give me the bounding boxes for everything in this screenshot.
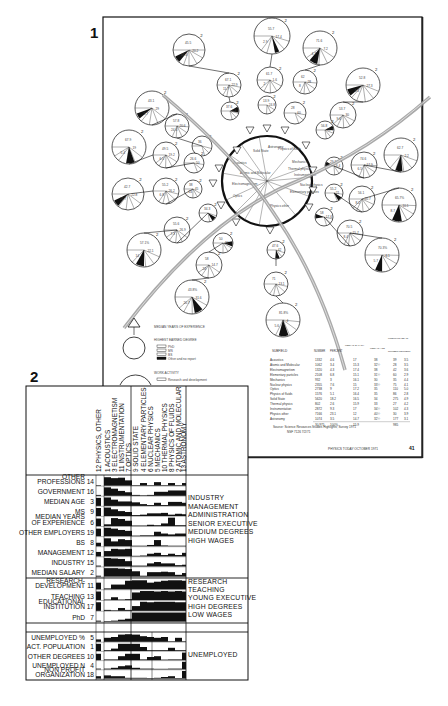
matrix-cell <box>147 657 154 660</box>
svg-text:Electromagnetism: Electromagnetism <box>270 368 295 372</box>
svg-text:3.5: 3.5 <box>330 417 335 421</box>
pie-value: 28 <box>307 80 311 84</box>
pie-value: 70.5 <box>346 225 352 229</box>
matrix-cell <box>104 508 111 516</box>
pie-chart: 42.722.825.72 <box>112 177 144 210</box>
matrix-cell <box>175 555 182 556</box>
matrix-cell <box>111 649 118 651</box>
svg-text:Optics: Optics <box>270 387 279 391</box>
svg-text:17: 17 <box>353 358 357 362</box>
matrix-cell <box>182 613 186 622</box>
table-total: 985 <box>393 423 398 427</box>
svg-text:4.9: 4.9 <box>404 397 409 401</box>
pie-value: 81.8% <box>279 311 288 315</box>
pie-chart: 67.9195.42 <box>112 129 146 164</box>
matrix-cell <box>111 610 118 611</box>
matrix-cell <box>168 572 175 576</box>
matrix-cell <box>154 492 161 496</box>
matrix-cell <box>132 526 140 527</box>
sector-label: Solid State <box>253 149 269 153</box>
svg-text:NUMBER PERCENT: NUMBER PERCENT <box>388 350 411 353</box>
matrix-cell <box>125 665 132 669</box>
matrix-cell <box>175 575 182 577</box>
matrix-cell <box>161 505 168 506</box>
pie-value: 2.2 <box>404 154 409 158</box>
svg-text:9.3: 9.3 <box>330 407 335 411</box>
matrix-cell <box>118 478 125 486</box>
matrix-group-label: TEACHING <box>188 586 225 593</box>
matrix-cell <box>168 515 175 516</box>
svg-text:7166: 7166 <box>315 412 322 416</box>
matrix-cell <box>175 514 182 516</box>
matrix-cell <box>168 676 175 678</box>
matrix-cell <box>118 600 125 601</box>
svg-text:1576: 1576 <box>315 392 322 396</box>
matrix-cell <box>147 583 154 590</box>
matrix-cell <box>132 556 140 557</box>
matrix-cell <box>104 650 111 651</box>
matrix-cell <box>161 613 168 622</box>
matrix-row-number: 16 <box>87 488 95 495</box>
matrix-cell <box>182 653 186 661</box>
pie-value: 13.1 <box>278 282 284 286</box>
matrix-cell <box>111 529 118 537</box>
matrix-cell <box>132 654 140 660</box>
matrix-group-label: HIGH DEGREES <box>188 603 243 610</box>
matrix-cell <box>111 549 118 557</box>
matrix-cell <box>154 602 161 611</box>
matrix-column-header: 11 INSTRUMENTATION <box>118 403 125 472</box>
matrix-cell <box>147 669 154 670</box>
matrix-cell <box>154 562 161 566</box>
svg-text:86: 86 <box>393 392 397 396</box>
matrix-cell <box>104 558 111 566</box>
pie-chart: 57.1%22.1142 <box>127 232 161 267</box>
matrix-cell <box>125 512 132 516</box>
matrix-cell <box>147 545 154 546</box>
svg-text:3.5: 3.5 <box>404 358 409 362</box>
matrix-cell <box>96 508 101 516</box>
pie-chart: 81.8%45.62 <box>266 302 300 337</box>
pie-value: 58 <box>205 257 209 261</box>
pie-chart: 71.67.24.72 <box>303 30 337 65</box>
matrix-cell <box>140 591 147 600</box>
svg-text:14.7: 14.7 <box>353 417 359 421</box>
matrix-cell <box>132 536 140 537</box>
matrix-row-label: GOVERNMENT <box>38 488 85 495</box>
svg-text:15.3: 15.3 <box>353 363 359 367</box>
svg-text:2108: 2108 <box>315 373 322 377</box>
matrix-row-label: PROFESSIONS <box>37 478 85 485</box>
matrix-cell <box>104 477 111 485</box>
pie-value: 56.1 <box>358 191 364 195</box>
matrix-cell <box>161 523 168 526</box>
matrix-cell <box>104 568 111 576</box>
matrix-column-header: 7 OPTICS <box>125 443 132 472</box>
matrix-group-label: HIGH WAGES <box>188 537 234 544</box>
pie-value: 4 <box>286 319 288 323</box>
matrix-cell <box>168 641 175 642</box>
matrix-cell <box>161 572 168 577</box>
matrix-group-label: INDUSTRY <box>188 494 224 501</box>
pie-value: 26.6 <box>190 157 196 161</box>
pie-value: 17.4 <box>276 35 282 39</box>
svg-text:35: 35 <box>374 387 378 391</box>
pie-value: 71.6 <box>316 39 322 43</box>
matrix-cell <box>161 555 168 556</box>
matrix-cell <box>168 602 175 611</box>
svg-text:2.6: 2.6 <box>330 402 335 406</box>
pie-value: 6.5 <box>160 157 165 161</box>
svg-text:110: 110 <box>393 387 398 391</box>
pie-value: 2.9 <box>263 40 268 44</box>
matrix-column-header: 3 ELECTROMAGNETISM <box>111 398 118 472</box>
matrix-cell <box>132 644 140 651</box>
pie-value: 22.1 <box>147 249 153 253</box>
pie-value: 11.7 <box>223 87 229 91</box>
svg-text:MEDIAN AGE: MEDIAN AGE <box>370 347 385 350</box>
svg-text:1062: 1062 <box>315 363 322 367</box>
matrix-cell <box>182 671 186 679</box>
matrix-cell <box>118 491 125 496</box>
matrix-cell <box>140 659 147 660</box>
pie-value: 4.4 <box>355 89 360 93</box>
pie-value: 25.7 <box>120 197 126 201</box>
matrix-cell <box>96 552 101 556</box>
pie-value: 74.6 <box>360 157 366 161</box>
